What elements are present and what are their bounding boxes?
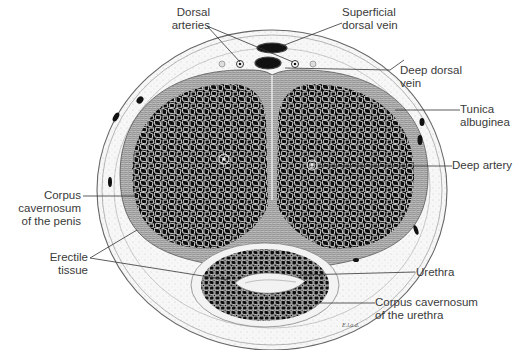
label-urethra: Urethra — [416, 266, 454, 279]
label-corpus-cavernosum-urethra: Corpus cavernosumof the urethra — [375, 296, 478, 322]
label-superficial-dorsal-vein: Superficialdorsal vein — [342, 6, 398, 32]
label-deep-artery: Deep artery — [452, 159, 512, 172]
superficial-dorsal-vein — [257, 43, 287, 53]
deep-dorsal-vein — [255, 57, 281, 69]
label-deep-dorsal-vein: Deep dorsalvein — [400, 64, 462, 90]
artist-signature: E.l.a.d. — [342, 322, 359, 328]
label-corpus-cavernosum-penis: Corpuscavernosumof the penis — [8, 189, 81, 228]
label-erectile-tissue: Erectiletissue — [30, 251, 88, 277]
corpus-cavernosum-urethra — [191, 243, 339, 327]
label-tunica-albuginea: Tunicaalbuginea — [460, 103, 510, 129]
anatomy-diagram: Dorsalarteries Superficialdorsal vein De… — [0, 0, 528, 350]
label-dorsal-arteries: Dorsalarteries — [150, 6, 210, 32]
